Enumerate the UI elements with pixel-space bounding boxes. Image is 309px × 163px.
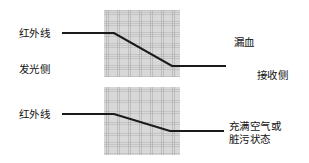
label-air-or-dirty-state: 充满空气或 脏污状态 <box>229 120 281 145</box>
diagram-canvas: 红外线 发光侧 红外线 漏血 接收侧 充满空气或 脏污状态 <box>0 0 309 163</box>
label-infrared-bottom: 红外线 <box>19 108 50 121</box>
label-emitter-side: 发光侧 <box>19 63 50 76</box>
sensor-medium-box-top <box>104 10 180 77</box>
label-infrared-top: 红外线 <box>19 27 50 40</box>
label-blood-leak: 漏血 <box>234 36 255 49</box>
sensor-medium-box-bottom <box>104 87 180 155</box>
label-receiver-side: 接收侧 <box>257 69 288 82</box>
